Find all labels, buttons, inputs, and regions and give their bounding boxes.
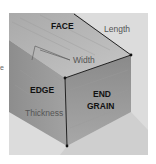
label-edge: EDGE (30, 86, 54, 95)
board-illustration (9, 13, 148, 155)
corner-dot (64, 77, 67, 80)
corner-dot (66, 145, 69, 148)
label-end-grain-1: END (93, 90, 111, 99)
label-width: Width (73, 56, 95, 65)
diagram-frame (9, 13, 148, 155)
corner-dot (130, 54, 133, 57)
cropped-text-fragment: e (0, 64, 4, 71)
label-length: Length (104, 25, 130, 34)
label-thickness: Thickness (25, 109, 63, 118)
label-face: FACE (51, 22, 74, 31)
label-end-grain-2: GRAIN (87, 102, 114, 111)
